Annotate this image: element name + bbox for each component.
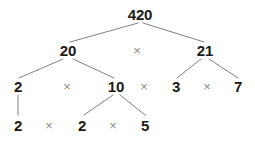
factor-node-n2b: 2 [14,118,22,133]
factor-node-n2c: 2 [78,118,86,133]
operator-op3: × [140,80,148,93]
tree-edge-n10-to-n5 [120,95,145,115]
tree-edge-n20-to-n10 [73,59,114,78]
factor-node-n3: 3 [172,79,180,94]
tree-edge-n10-to-n2c [84,95,113,115]
factor-node-n5: 5 [141,118,149,133]
operator-op5: × [45,119,53,132]
factor-node-n20: 20 [60,43,76,58]
factor-node-n10: 10 [108,79,124,94]
tree-edge-n420-to-n21 [143,23,204,42]
operator-op1: × [133,44,141,57]
operator-op4: × [203,80,211,93]
tree-edge-n21-to-n7 [209,59,238,78]
tree-edge-n21-to-n3 [177,59,201,78]
operator-op6: × [109,119,117,132]
factor-tree-diagram: 42020×212×10×3×72×2×5 [0,0,255,145]
tree-edge-n420-to-n20 [70,23,138,42]
factor-node-n7: 7 [234,79,242,94]
factor-node-n21: 21 [197,43,213,58]
factor-node-n2a: 2 [14,79,22,94]
operator-op2: × [63,80,71,93]
tree-edge-n20-to-n2a [19,59,63,78]
factor-node-n420: 420 [128,7,152,22]
